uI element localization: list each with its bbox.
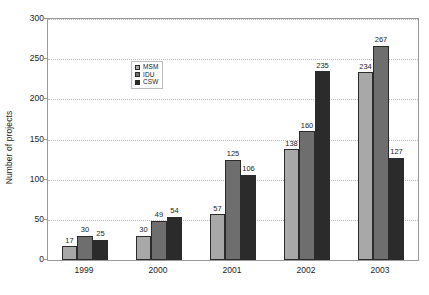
legend-swatch-icon — [135, 65, 140, 70]
plot-area: 17302530495457125106138160235234267127 M… — [47, 18, 419, 261]
y-axis-title: Number of projects — [0, 0, 18, 295]
bar-value-label: 25 — [96, 229, 104, 238]
bar-idu-1999 — [77, 236, 93, 260]
legend-item-csw: CSW — [135, 79, 158, 86]
bar-value-label: 235 — [316, 61, 329, 70]
x-tick-label-2003: 2003 — [371, 265, 390, 275]
legend-label: MSM — [143, 64, 158, 71]
y-tick-label: 150 — [4, 134, 44, 144]
bar-value-label: 106 — [242, 164, 255, 173]
bar-csw-2000 — [167, 217, 183, 260]
gridline — [48, 59, 418, 60]
legend-swatch-icon — [135, 72, 140, 77]
x-tick-label-2000: 2000 — [149, 265, 168, 275]
bar-value-label: 30 — [139, 225, 147, 234]
bar-msm-2002 — [284, 149, 300, 260]
bar-value-label: 160 — [301, 121, 314, 130]
legend-swatch-icon — [135, 80, 140, 85]
bar-csw-2001 — [241, 175, 257, 260]
y-tick-label: 100 — [4, 174, 44, 184]
x-tick-label-2002: 2002 — [297, 265, 316, 275]
bar-msm-2000 — [136, 236, 152, 260]
bar-msm-2001 — [210, 214, 226, 260]
y-tick-label: 200 — [4, 93, 44, 103]
bar-csw-2003 — [389, 158, 405, 260]
y-tick-label: 50 — [4, 214, 44, 224]
legend: MSMIDUCSW — [131, 61, 163, 89]
bar-value-label: 30 — [81, 225, 89, 234]
x-tick-label-1999: 1999 — [75, 265, 94, 275]
bar-value-label: 127 — [390, 147, 403, 156]
bar-msm-2003 — [358, 72, 374, 260]
bar-value-label: 17 — [65, 236, 73, 245]
gridline — [48, 260, 418, 261]
y-tick-label: 300 — [4, 13, 44, 23]
gridline — [48, 19, 418, 20]
bar-idu-2003 — [373, 46, 389, 260]
legend-item-msm: MSM — [135, 64, 158, 71]
y-tick-label: 250 — [4, 53, 44, 63]
bar-csw-1999 — [93, 240, 109, 260]
bar-value-label: 54 — [170, 206, 178, 215]
bar-value-label: 267 — [375, 35, 388, 44]
bar-idu-2002 — [299, 131, 315, 260]
bar-value-label: 234 — [359, 62, 372, 71]
bar-value-label: 125 — [227, 149, 240, 158]
bar-value-label: 49 — [155, 210, 163, 219]
y-tick-label: 0 — [4, 254, 44, 264]
bar-value-label: 57 — [213, 204, 221, 213]
bar-idu-2000 — [151, 221, 167, 260]
x-tick-label-2001: 2001 — [223, 265, 242, 275]
bar-chart-figure: Number of projects 050100150200250300 19… — [0, 0, 429, 295]
legend-label: CSW — [143, 79, 158, 86]
bar-idu-2001 — [225, 160, 241, 260]
bar-msm-1999 — [62, 246, 78, 260]
bar-csw-2002 — [315, 71, 331, 260]
bar-value-label: 138 — [285, 139, 298, 148]
